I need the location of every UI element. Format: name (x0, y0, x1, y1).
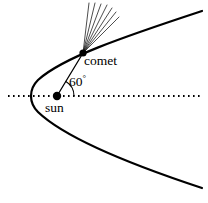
comet-label: comet (84, 54, 117, 68)
diagram-canvas (0, 0, 208, 203)
sun-label: sun (45, 101, 64, 115)
degree-symbol-icon: ° (83, 73, 87, 83)
angle-value: 60 (69, 74, 83, 89)
comet-tail-line (83, 17, 119, 53)
comet-orbit-diagram: comet sun 60° (0, 0, 208, 203)
angle-label: 60° (69, 75, 86, 89)
sun-point (53, 92, 61, 100)
